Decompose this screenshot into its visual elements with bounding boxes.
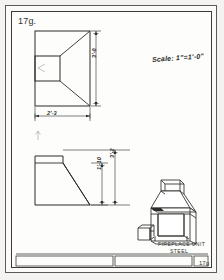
pictorial-fireplace-unit [138,180,196,244]
side-overall-height-dimension-label: 3'-2 [110,148,116,158]
side-slope-line [63,163,90,205]
firebox-opening [158,214,184,236]
side-elevation-view [35,131,90,206]
technical-drawing-canvas [0,0,224,280]
pictorial-caption-line-1: FIREPLACE UNIT [158,242,205,247]
drawing-sheet: 17g. Scale: 1"=1'-0" 3'-0 2'-3 3'-2 1'-1… [0,0,224,280]
front-width-dimension [35,107,90,121]
side-view-arrow-icon [36,131,41,140]
duct-front-face [138,228,150,240]
front-outline [35,31,90,106]
lintel-bevel-bottom-right [190,214,196,218]
front-elevation-view [35,31,90,106]
sheet-label: 17g. [18,17,36,26]
front-section-arrow-icon [38,64,45,72]
duct-top-left-bevel [138,225,142,228]
opening-bottom-bevel [184,236,189,239]
pictorial-caption-line-2: STEEL [170,249,188,254]
front-height-dimension [91,31,101,106]
title-block [16,254,208,266]
side-opening-height-dimension-label: 1'-10 [97,157,103,170]
flue-top-cap [161,180,184,184]
front-height-dimension-label: 3'-0 [92,48,98,58]
hearth-left-bevel [151,241,156,244]
title-block-cell-left [16,256,113,266]
front-width-dimension-label: 2'-3 [47,111,57,117]
title-block-cell-middle [115,256,192,266]
front-splay-bottom [60,81,90,106]
title-block-number: 17g [199,260,209,266]
front-splay-top [60,31,90,56]
